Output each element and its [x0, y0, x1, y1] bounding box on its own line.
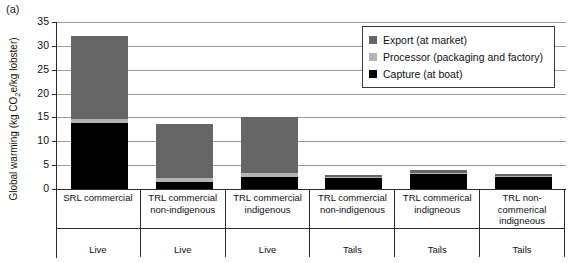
- bar-segment-capture: [156, 182, 213, 189]
- x-category-label-1: SRL commercial: [56, 189, 141, 228]
- x-axis-group-row: LiveLiveLiveTailsTailsTails: [56, 229, 565, 257]
- legend-item-1[interactable]: Export (at market): [369, 31, 548, 48]
- x-axis-left-edge: [56, 189, 57, 258]
- panel-label: (a): [6, 3, 19, 15]
- y-axis-title-suffix: e/kg lobster): [8, 37, 19, 92]
- legend-swatch-icon: [369, 53, 377, 61]
- x-group-label-1: Live: [56, 229, 141, 257]
- y-tick-label-30: 30: [23, 39, 49, 51]
- y-axis-title-subscript: 2: [13, 92, 22, 96]
- x-category-label-6: TRL non-commericalindigneous: [480, 189, 565, 228]
- bar-3[interactable]: [241, 117, 298, 189]
- bar-segment-export: [156, 124, 213, 178]
- bar-segment-capture: [71, 123, 128, 189]
- x-category-label-5: TRL commericalindigneous: [395, 189, 480, 228]
- bar-1[interactable]: [71, 36, 128, 189]
- y-tick-label-35: 35: [23, 15, 49, 27]
- bar-segment-capture: [495, 177, 552, 189]
- bar-6[interactable]: [495, 174, 552, 189]
- legend-item-2[interactable]: Processor (packaging and factory): [369, 48, 548, 65]
- x-category-label-3: TRL commercialindigenous: [226, 189, 311, 228]
- y-tick-label-10: 10: [23, 134, 49, 146]
- bar-segment-export: [241, 117, 298, 173]
- legend-item-3[interactable]: Capture (at boat): [369, 65, 548, 82]
- x-axis-category-table: SRL commercialTRL commercialnon-indigeno…: [56, 189, 565, 258]
- legend-swatch-icon: [369, 70, 377, 78]
- bar-segment-capture: [325, 178, 382, 189]
- x-group-label-5: Tails: [395, 229, 480, 257]
- y-axis-title-prefix: Global warming (kg CO: [8, 97, 19, 201]
- bar-4[interactable]: [325, 175, 382, 189]
- x-category-label-2: TRL commercialnon-indigenous: [141, 189, 226, 228]
- x-group-label-4: Tails: [310, 229, 395, 257]
- legend-label: Processor (packaging and factory): [383, 51, 543, 63]
- legend-swatch-icon: [369, 36, 377, 44]
- x-group-label-6: Tails: [480, 229, 565, 257]
- y-tick-label-0: 0: [23, 182, 49, 194]
- bar-5[interactable]: [410, 170, 467, 189]
- bar-segment-capture: [410, 174, 467, 189]
- y-tick-label-15: 15: [23, 110, 49, 122]
- bar-2[interactable]: [156, 124, 213, 189]
- y-tick-label-20: 20: [23, 87, 49, 99]
- legend-label: Export (at market): [383, 34, 467, 46]
- y-axis-title: Global warming (kg CO2e/kg lobster): [8, 24, 22, 214]
- chart-legend: Export (at market)Processor (packaging a…: [362, 26, 555, 88]
- x-category-label-4: TRL commercialnon-indigenous: [310, 189, 395, 228]
- figure-panel-a: (a) Global warming (kg CO2e/kg lobster) …: [0, 0, 573, 263]
- bar-segment-export: [71, 36, 128, 120]
- bar-segment-capture: [241, 177, 298, 189]
- x-group-label-3: Live: [226, 229, 311, 257]
- y-tick-label-25: 25: [23, 63, 49, 75]
- x-group-label-2: Live: [141, 229, 226, 257]
- y-tick-label-5: 5: [23, 158, 49, 170]
- x-axis-name-row: SRL commercialTRL commercialnon-indigeno…: [56, 189, 565, 229]
- legend-label: Capture (at boat): [383, 68, 462, 80]
